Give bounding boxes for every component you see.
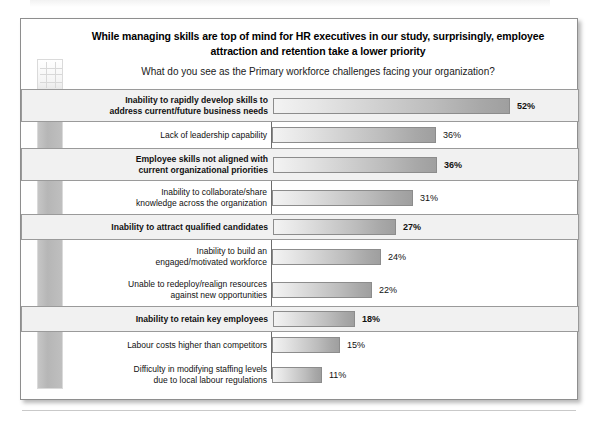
bar-value-label: 18% [362, 314, 380, 324]
bar-track [272, 282, 372, 298]
bar-value-label: 11% [329, 370, 346, 380]
bar-fill [273, 98, 510, 114]
bar-row: Employee skills not aligned withcurrent … [21, 148, 579, 181]
bar-value-label: 31% [420, 193, 438, 203]
bar-row: Difficulty in modifying staffing levelsd… [21, 358, 579, 391]
bar-track [272, 190, 413, 206]
bar-row: Inability to attract qualified candidate… [21, 214, 579, 240]
bar-track [273, 157, 437, 173]
bar-row: Inability to retain key employees18% [21, 306, 579, 332]
bar-fill [272, 337, 340, 353]
bar-fill [272, 127, 436, 143]
bar-row-label: Inability to build anengaged/motivated w… [61, 246, 267, 268]
bar-row: Unable to redeploy/realign resourcesagai… [21, 273, 579, 306]
bar-fill [273, 311, 355, 327]
bar-value-label: 15% [347, 340, 365, 350]
bar-row-label: Inability to attract qualified candidate… [62, 222, 268, 233]
bar-track [273, 98, 510, 114]
bar-row: Labour costs higher than competitors15% [21, 332, 579, 358]
bar-row-label: Lack of leadership capability [61, 130, 267, 141]
bar-row-label: Inability to retain key employees [62, 314, 268, 325]
bar-fill [272, 249, 381, 265]
bar-fill [272, 282, 372, 298]
bar-value-label: 27% [403, 222, 421, 232]
bar-value-label: 36% [443, 130, 461, 140]
bar-fill [273, 157, 437, 173]
bar-fill [272, 367, 322, 383]
footer-divider [22, 410, 576, 411]
top-edge-smudge [30, 0, 550, 7]
bar-row-label: Labour costs higher than competitors [61, 340, 267, 351]
bar-track [272, 249, 381, 265]
bar-chart: Inability to rapidly develop skills toad… [21, 89, 579, 389]
bar-track [272, 337, 340, 353]
bar-fill [273, 219, 396, 235]
bar-track [273, 311, 355, 327]
bar-row: Inability to collaborate/shareknowledge … [21, 181, 579, 214]
bar-row: Inability to build anengaged/motivated w… [21, 240, 579, 273]
bar-row: Inability to rapidly develop skills toad… [21, 89, 579, 122]
bar-track [273, 219, 396, 235]
bar-row-label: Difficulty in modifying staffing levelsd… [61, 364, 267, 386]
bar-row-label: Inability to rapidly develop skills toad… [62, 95, 268, 117]
title-block: While managing skills are top of mind fo… [79, 29, 557, 79]
bar-row: Lack of leadership capability36% [21, 122, 579, 148]
bar-fill [272, 190, 413, 206]
bar-row-label: Inability to collaborate/shareknowledge … [61, 187, 267, 209]
bar-value-label: 22% [379, 285, 397, 295]
bar-value-label: 36% [444, 160, 462, 170]
bar-track [272, 367, 322, 383]
bar-row-label: Employee skills not aligned withcurrent … [62, 154, 268, 176]
bar-value-label: 24% [388, 252, 406, 262]
slide-frame: While managing skills are top of mind fo… [20, 18, 578, 400]
bar-value-label: 52% [517, 101, 535, 111]
chart-title: While managing skills are top of mind fo… [79, 29, 557, 59]
bar-track [272, 127, 436, 143]
bar-row-label: Unable to redeploy/realign resourcesagai… [61, 279, 267, 301]
chart-subtitle: What do you see as the Primary workforce… [79, 65, 557, 79]
